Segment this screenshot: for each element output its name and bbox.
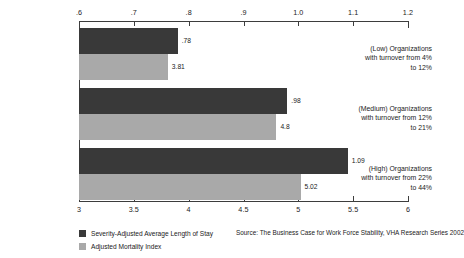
bottom-axis-tick-label: 4	[187, 205, 191, 214]
bar-severity-adjusted-average-length-of-stay-group-3	[79, 148, 348, 174]
top-axis-tick	[298, 21, 299, 26]
bottom-axis-tick	[408, 196, 409, 201]
top-axis-tick-label: 1.1	[348, 8, 358, 17]
legend-swatch-icon-light	[79, 243, 86, 250]
bar-value-label: .98	[291, 97, 300, 104]
plot-right-edge	[408, 21, 409, 28]
bar-severity-adjusted-average-length-of-stay-group-2	[79, 88, 287, 114]
chart-legend: Severity-Adjusted Average Length of Stay…	[79, 228, 213, 254]
top-axis-tick	[244, 21, 245, 26]
bottom-axis-tick-label: 3.5	[129, 205, 139, 214]
bar-value-label: .78	[182, 37, 191, 44]
top-axis-tick-label: .9	[240, 8, 246, 17]
top-axis-tick-label: .8	[186, 8, 192, 17]
bar-adjusted-mortality-index-group-3	[79, 174, 301, 200]
bar-adjusted-mortality-index-group-2	[79, 114, 276, 140]
legend-swatch-icon-dark	[79, 230, 86, 237]
top-axis-tick	[353, 21, 354, 26]
bar-value-label: 5.02	[305, 183, 318, 190]
bottom-axis-tick-label: 5	[296, 205, 300, 214]
legend-label: Severity-Adjusted Average Length of Stay	[91, 230, 213, 237]
bar-adjusted-mortality-index-group-1	[79, 54, 168, 80]
bar-severity-adjusted-average-length-of-stay-group-1	[79, 28, 178, 54]
bottom-axis-tick-label: 4.5	[238, 205, 248, 214]
legend-item-adjusted-mortality-index: Adjusted Mortality Index	[79, 241, 213, 252]
category-label-low-organizations-with-turnover-from-4-t: (Low) Organizations with turnover from 4…	[358, 44, 432, 72]
bottom-axis-tick-label: 5.5	[348, 205, 358, 214]
source-note: Source: The Business Case for Work Force…	[236, 229, 464, 236]
bottom-axis-tick-label: 3	[77, 205, 81, 214]
category-label-high-organizations-with-turnover-from-22: (High) Organizations with turnover from …	[358, 164, 432, 192]
legend-item-severity-adjusted-length-of-stay: Severity-Adjusted Average Length of Stay	[79, 228, 213, 239]
top-axis-tick-label: 1.2	[403, 8, 413, 17]
bottom-axis-tick	[353, 196, 354, 201]
top-axis-tick	[134, 21, 135, 26]
legend-label: Adjusted Mortality Index	[91, 243, 161, 250]
bottom-axis-line	[79, 201, 409, 202]
top-axis-tick	[189, 21, 190, 26]
bar-value-label: 4.8	[280, 123, 289, 130]
top-axis-tick-label: 1.0	[293, 8, 303, 17]
category-label-medium-organizations-with-turnover-from-: (Medium) Organizations with turnover fro…	[358, 104, 432, 132]
top-axis-tick-label: .7	[131, 8, 137, 17]
bar-value-label: 1.09	[352, 157, 365, 164]
bar-value-label: 3.81	[172, 63, 185, 70]
top-axis-tick-label: .6	[76, 8, 82, 17]
bottom-axis-tick-label: 6	[406, 205, 410, 214]
